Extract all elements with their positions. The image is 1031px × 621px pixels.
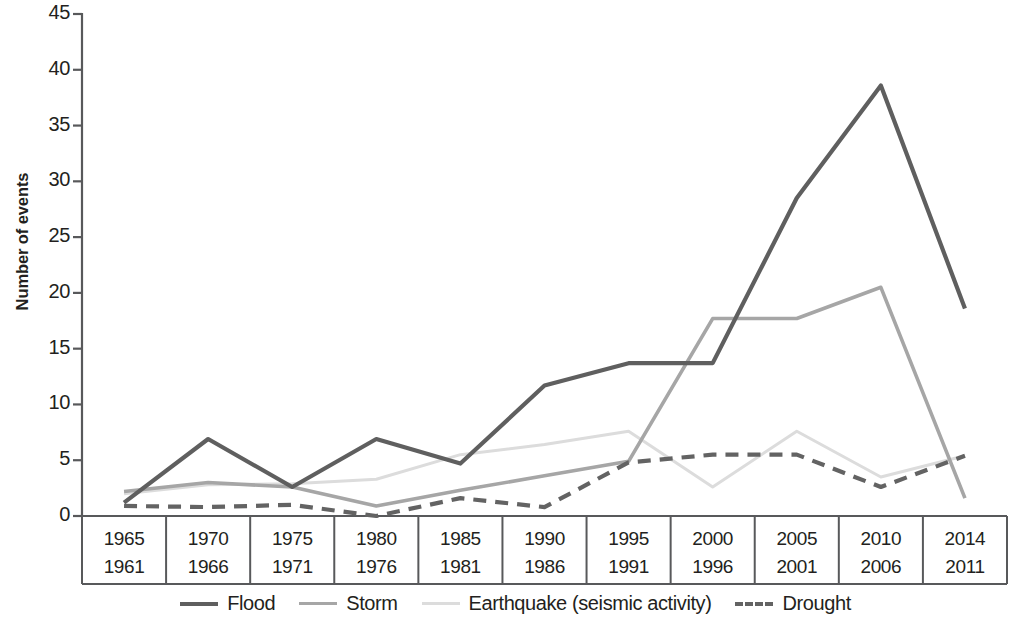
- series-line: [124, 287, 965, 506]
- x-axis-period-start-year: 2001: [755, 556, 839, 578]
- legend-label: Flood: [227, 592, 275, 615]
- x-axis-period-end-year: 1990: [502, 528, 586, 550]
- y-axis-title: Number of events: [13, 132, 32, 352]
- x-axis-period-start-year: 1986: [502, 556, 586, 578]
- legend-swatch-icon: [299, 602, 337, 605]
- x-axis-period-start-year: 1971: [250, 556, 334, 578]
- legend-label: Earthquake (seismic activity): [469, 592, 712, 615]
- data-series-group: [124, 85, 965, 516]
- x-axis-period-end-year: 1980: [334, 528, 418, 550]
- legend-label: Drought: [782, 592, 850, 615]
- y-axis-tick-label: 35: [30, 113, 70, 136]
- x-axis-period-start-year: 1996: [671, 556, 755, 578]
- y-axis-tick-label: 45: [30, 1, 70, 24]
- line-chart: Number of events 051015202530354045 1965…: [0, 0, 1031, 621]
- legend-item[interactable]: Earthquake (seismic activity): [422, 592, 712, 615]
- y-axis-tick-label: 20: [30, 280, 70, 303]
- x-axis-period-end-year: 1985: [418, 528, 502, 550]
- y-axis-tick-label: 40: [30, 57, 70, 80]
- x-axis-period-start-year: 1981: [418, 556, 502, 578]
- y-axis-tick-label: 10: [30, 391, 70, 414]
- legend-swatch-icon: [422, 602, 460, 605]
- x-axis-period-start-year: 1991: [587, 556, 671, 578]
- legend-label: Storm: [346, 592, 397, 615]
- y-axis-tick-label: 30: [30, 168, 70, 191]
- x-axis-period-end-year: 1975: [250, 528, 334, 550]
- x-axis-period-start-year: 2006: [839, 556, 923, 578]
- legend-swatch-icon: [735, 602, 773, 606]
- x-axis-period-end-year: 1995: [587, 528, 671, 550]
- x-axis-period-end-year: 2010: [839, 528, 923, 550]
- legend-swatch-icon: [180, 602, 218, 606]
- y-axis-tick-label: 0: [30, 503, 70, 526]
- x-axis-period-end-year: 2000: [671, 528, 755, 550]
- legend-item[interactable]: Flood: [180, 592, 275, 615]
- x-axis-period-start-year: 1976: [334, 556, 418, 578]
- x-axis-period-end-year: 2014: [923, 528, 1007, 550]
- x-axis-period-end-year: 2005: [755, 528, 839, 550]
- y-axis-tick-label: 25: [30, 224, 70, 247]
- legend-item[interactable]: Storm: [299, 592, 397, 615]
- x-axis-period-end-year: 1965: [82, 528, 166, 550]
- legend-item[interactable]: Drought: [735, 592, 850, 615]
- y-axis-tick-label: 15: [30, 336, 70, 359]
- x-axis-period-start-year: 2011: [923, 556, 1007, 578]
- x-axis-period-start-year: 1966: [166, 556, 250, 578]
- series-line: [124, 85, 965, 502]
- y-axis-tick-label: 5: [30, 447, 70, 470]
- x-axis-period-end-year: 1970: [166, 528, 250, 550]
- x-axis-period-start-year: 1961: [82, 556, 166, 578]
- chart-legend: FloodStormEarthquake (seismic activity)D…: [0, 592, 1031, 615]
